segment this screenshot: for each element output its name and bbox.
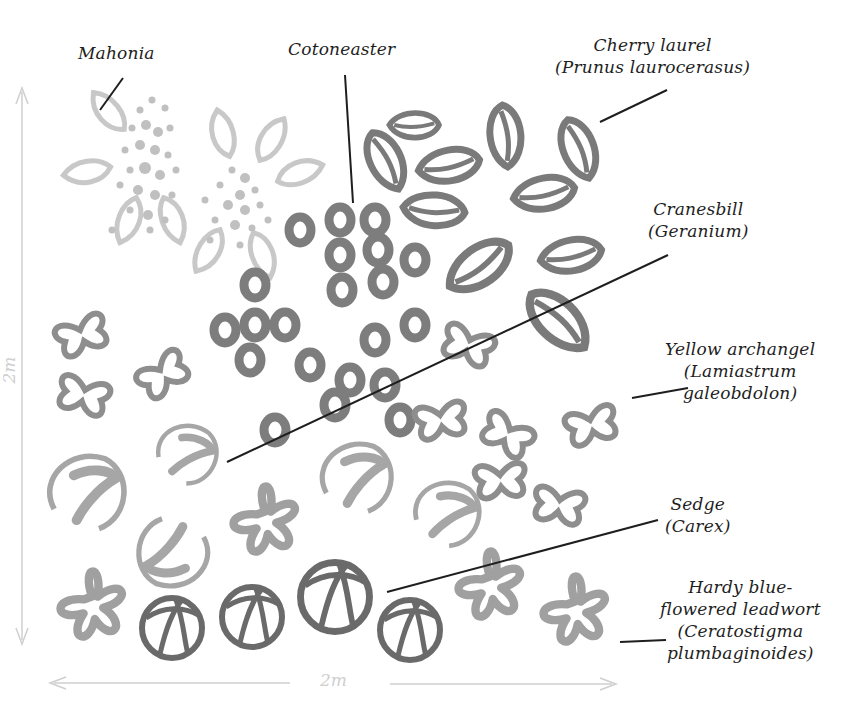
cherry-laurel-group — [359, 104, 605, 360]
label-cotoneaster: Cotoneaster — [288, 38, 395, 60]
label-cranesbill: Cranesbill (Geranium) — [648, 198, 749, 242]
label-cherry-laurel: Cherry laurel (Prunus laurocerasus) — [555, 34, 750, 78]
dimension-arrows — [16, 88, 616, 690]
cotoneaster-group — [214, 207, 426, 443]
height-dimension-label: 2m — [0, 357, 19, 384]
sedge-group — [142, 563, 440, 661]
label-yellow-archangel: Yellow archangel (Lamiastrum galeobdolon… — [665, 338, 815, 404]
width-dimension-label: 2m — [320, 670, 347, 690]
label-mahonia: Mahonia — [78, 42, 155, 64]
label-leadwort: Hardy blue- flowered leadwort (Ceratosti… — [660, 576, 821, 664]
planting-plan-diagram: 2m 2m Mahonia Cotoneaster Cherry laurel … — [0, 0, 855, 706]
label-sedge: Sedge (Carex) — [665, 493, 731, 537]
leader-lines — [100, 75, 688, 642]
mahonia-group — [62, 86, 326, 281]
